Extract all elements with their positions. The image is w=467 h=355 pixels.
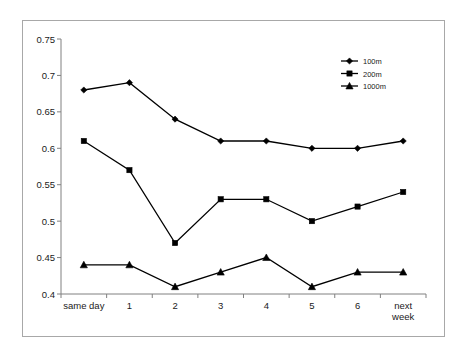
data-point-100m — [81, 87, 87, 93]
data-point-100m — [354, 145, 360, 151]
series-200m — [81, 138, 406, 245]
data-point-200m — [264, 197, 269, 202]
legend-label-100m: 100m — [363, 57, 382, 66]
legend-label-200m: 200m — [363, 70, 382, 79]
legend-item-100m[interactable]: 100m — [341, 57, 382, 66]
y-tick-label: 0.55 — [37, 179, 56, 190]
y-tick-label: 0.45 — [37, 252, 56, 263]
y-axis-tick-labels: 0.750.70.650.60.550.50.450.4 — [37, 34, 56, 300]
y-tick-label: 0.5 — [42, 216, 55, 227]
legend-marker-200m — [347, 71, 352, 76]
data-point-1000m — [263, 254, 270, 261]
chart-legend: 100m200m1000m — [341, 57, 386, 91]
data-point-200m — [81, 138, 86, 143]
x-tick-label: 1 — [127, 300, 132, 311]
data-point-200m — [309, 219, 314, 224]
chart-frame: 0.750.70.650.60.550.50.450.4 same day123… — [22, 20, 445, 337]
data-point-100m — [218, 138, 224, 144]
data-series-group — [80, 80, 407, 290]
data-point-100m — [309, 145, 315, 151]
series-1000m — [80, 254, 407, 290]
data-point-100m — [263, 138, 269, 144]
series-line-200m — [84, 141, 403, 243]
x-tick-label: nextweek — [391, 300, 414, 322]
legend-label-1000m: 1000m — [363, 82, 386, 91]
x-tick-label: 3 — [218, 300, 223, 311]
data-point-200m — [355, 204, 360, 209]
data-point-200m — [218, 197, 223, 202]
y-tick-label: 0.7 — [42, 70, 55, 81]
x-tick-label: 2 — [172, 300, 177, 311]
data-point-100m — [400, 138, 406, 144]
data-point-200m — [401, 189, 406, 194]
data-point-200m — [127, 168, 132, 173]
x-tick-label: 5 — [309, 300, 314, 311]
legend-item-1000m[interactable]: 1000m — [341, 82, 386, 91]
series-100m — [81, 80, 407, 152]
x-tick-label: 4 — [264, 300, 269, 311]
y-tick-label: 0.6 — [42, 143, 55, 154]
y-tick-label: 0.4 — [42, 289, 55, 300]
line-chart: 0.750.70.650.60.550.50.450.4 same day123… — [23, 21, 444, 336]
legend-marker-100m — [346, 58, 352, 64]
x-axis-tick-labels: same day123456nextweek — [63, 300, 414, 322]
x-tick-label: same day — [63, 300, 104, 311]
data-point-200m — [172, 240, 177, 245]
x-tick-label: 6 — [355, 300, 360, 311]
legend-item-200m[interactable]: 200m — [341, 70, 382, 79]
y-tick-label: 0.75 — [37, 34, 56, 45]
series-line-100m — [84, 83, 403, 149]
y-tick-label: 0.65 — [37, 106, 56, 117]
